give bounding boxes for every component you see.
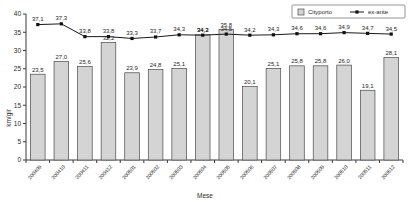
y-tick-label: 35 <box>14 29 22 36</box>
y-tick-label: 10 <box>14 120 22 127</box>
y-axis-title: km/gir <box>5 108 13 127</box>
y-tick-label: 5 <box>17 138 21 145</box>
bar-line-chart: 0510152025303540 20040920041020041120041… <box>0 0 411 203</box>
line-value-label: 33,3 <box>126 30 138 36</box>
x-tick-label: 200510 <box>333 164 349 181</box>
bar-value-label: 28,1 <box>385 50 397 56</box>
bar-value-label: 24,8 <box>150 62 162 68</box>
line-marker <box>248 34 251 37</box>
line-value-label: 34,9 <box>338 24 350 30</box>
line-value-label: 33,8 <box>79 28 91 34</box>
x-tick-label: 200410 <box>50 164 66 181</box>
bar <box>384 57 399 160</box>
line-marker <box>178 33 181 36</box>
y-tick-label: 0 <box>17 156 21 163</box>
x-tick-label: 200409 <box>26 164 42 181</box>
line-value-label: 33,8 <box>103 28 115 34</box>
x-tick-label: 200412 <box>97 164 113 181</box>
y-tick-label: 30 <box>14 47 22 54</box>
x-tick-label: 200512 <box>380 164 396 181</box>
x-tick-label: 200502 <box>144 164 160 181</box>
x-tick-label: 200503 <box>168 164 184 181</box>
line-marker <box>390 32 393 35</box>
bar <box>337 65 352 160</box>
line-marker <box>154 35 157 38</box>
line-value-label: 34,6 <box>315 25 327 31</box>
y-tick-label: 40 <box>14 10 22 17</box>
legend-swatch-cityporto[interactable] <box>298 9 304 15</box>
bar <box>360 90 375 160</box>
x-axis: 2004092004102004112004122005012005022005… <box>26 160 403 181</box>
line-marker <box>60 22 63 25</box>
bar <box>125 73 140 160</box>
x-tick-label: 200505 <box>215 164 231 181</box>
bar-value-label: 25,1 <box>173 61 185 67</box>
bar <box>313 66 328 160</box>
line-value-label: 34,5 <box>385 26 397 32</box>
bar-value-label: 23,9 <box>126 65 138 71</box>
y-tick-label: 15 <box>14 102 22 109</box>
bar-value-label: 27,0 <box>56 54 68 60</box>
bar <box>243 87 258 160</box>
bar <box>219 29 234 160</box>
bar <box>30 74 45 160</box>
bar <box>266 68 281 160</box>
bar-value-label: 26,0 <box>338 58 350 64</box>
line-value-label: 34,7 <box>362 25 374 31</box>
line-value-label: 33,7 <box>150 28 162 34</box>
bar <box>195 35 210 160</box>
line-marker <box>272 33 275 36</box>
line-value-label: 37,3 <box>56 15 68 21</box>
line-marker <box>342 31 345 34</box>
bar-value-label: 20,1 <box>244 79 256 85</box>
x-tick-label: 200507 <box>262 164 278 181</box>
line-marker <box>130 37 133 40</box>
bar <box>78 67 93 160</box>
bar <box>54 61 69 160</box>
x-tick-label: 200508 <box>286 164 302 181</box>
bar-value-label: 25,1 <box>268 61 280 67</box>
bar-value-label: 25,6 <box>79 59 91 65</box>
bar-value-label: 25,8 <box>315 58 327 64</box>
x-axis-title: Mese <box>197 192 213 199</box>
bar-value-label: 25,8 <box>291 58 303 64</box>
bar-value-label: 19,1 <box>362 83 374 89</box>
x-tick-label: 200506 <box>239 164 255 181</box>
line-value-label: 34,2 <box>197 27 209 33</box>
x-tick-label: 200504 <box>191 164 207 181</box>
bar-value-label: 23,5 <box>32 67 44 73</box>
line-marker <box>36 23 39 26</box>
bar-value-label: 32,2 <box>103 35 115 41</box>
line-marker <box>201 34 204 37</box>
x-tick-label: 200511 <box>357 164 373 181</box>
line-value-label: 34,3 <box>173 26 185 32</box>
line-marker <box>366 32 369 35</box>
bar <box>101 42 116 160</box>
chart-container: 0510152025303540 20040920041020041120041… <box>0 0 411 203</box>
bar <box>172 68 187 160</box>
bar <box>148 69 163 160</box>
x-tick-label: 200509 <box>309 164 325 181</box>
bar-series-cityporto <box>30 29 398 160</box>
line-marker <box>295 32 298 35</box>
line-value-label: 37,1 <box>32 16 44 22</box>
legend-label-ex-ante[interactable]: ex-ante <box>368 9 389 15</box>
line-marker <box>83 35 86 38</box>
legend-label-cityporto[interactable]: Cityporto <box>308 9 333 15</box>
line-value-label: 34,2 <box>244 27 256 33</box>
chart-legend[interactable]: Cityportoex-ante <box>292 5 405 18</box>
line-marker <box>319 32 322 35</box>
x-tick-label: 200411 <box>74 164 90 181</box>
bar <box>290 66 305 160</box>
y-tick-label: 20 <box>14 83 22 90</box>
line-value-label: 34,5 <box>220 26 232 32</box>
y-tick-label: 25 <box>14 65 22 72</box>
legend-marker-ex-ante[interactable] <box>355 10 358 13</box>
line-value-label: 34,3 <box>268 26 280 32</box>
line-marker <box>225 32 228 35</box>
line-value-label: 34,6 <box>291 25 303 31</box>
x-tick-label: 200501 <box>121 164 137 181</box>
y-axis: 0510152025303540 <box>14 10 26 163</box>
